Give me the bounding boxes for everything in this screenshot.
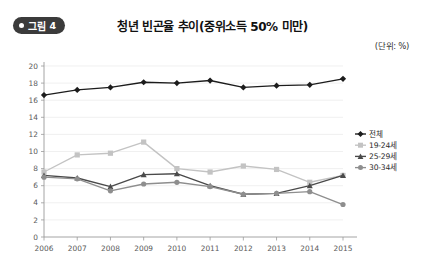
data-point-marker — [358, 165, 363, 170]
y-tick-label: 20 — [29, 62, 39, 71]
chart-legend: 전체19-24세25-29세30-34세 — [355, 129, 397, 173]
series-19-24세 — [41, 139, 345, 184]
y-tick-label: 18 — [29, 79, 39, 88]
data-point-marker — [307, 189, 312, 194]
x-tick-label: 2014 — [300, 244, 319, 253]
data-point-marker — [274, 191, 279, 196]
y-tick-label: 12 — [29, 130, 38, 139]
x-tick-label: 2011 — [201, 244, 220, 253]
series-line — [44, 79, 343, 95]
data-point-marker — [240, 84, 246, 90]
data-point-marker — [174, 180, 179, 185]
data-point-marker — [141, 79, 147, 85]
legend-label: 19-24세 — [369, 141, 397, 150]
data-point-marker — [108, 151, 113, 156]
data-point-marker — [358, 143, 363, 148]
y-tick-label: 0 — [33, 233, 38, 242]
x-tick-label: 2015 — [334, 244, 353, 253]
series-line — [44, 142, 343, 182]
data-point-marker — [141, 139, 146, 144]
y-tick-label: 8 — [33, 164, 38, 173]
x-tick-label: 2013 — [267, 244, 286, 253]
legend-label: 30-34세 — [369, 163, 397, 172]
data-point-marker — [358, 131, 364, 137]
legend-label: 전체 — [369, 129, 383, 139]
legend-item-19-24세[interactable]: 19-24세 — [355, 141, 397, 150]
x-tick-label: 2012 — [234, 244, 253, 253]
line-chart-svg: 02468101214161820 2006200720082009201020… — [0, 0, 425, 272]
x-tick-label: 2009 — [134, 244, 153, 253]
data-point-marker — [141, 181, 146, 186]
data-point-marker — [207, 77, 213, 83]
legend-item-25-29세[interactable]: 25-29세 — [355, 152, 397, 161]
x-axis-labels: 2006200720082009201020112012201320142015 — [35, 244, 353, 253]
data-point-marker — [74, 87, 80, 93]
data-point-marker — [241, 192, 246, 197]
data-point-marker — [340, 202, 345, 207]
legend-item-전체[interactable]: 전체 — [355, 129, 383, 139]
data-point-marker — [208, 169, 213, 174]
data-point-marker — [274, 167, 279, 172]
data-point-marker — [307, 82, 313, 88]
data-point-marker — [75, 176, 80, 181]
data-point-marker — [41, 175, 46, 180]
y-tick-label: 2 — [33, 216, 38, 225]
data-point-marker — [107, 84, 113, 90]
data-point-marker — [208, 184, 213, 189]
series-전체 — [41, 76, 346, 98]
data-point-marker — [108, 188, 113, 193]
legend-label: 25-29세 — [369, 152, 397, 161]
data-point-marker — [174, 166, 179, 171]
x-tick-label: 2007 — [68, 244, 87, 253]
y-axis-labels: 02468101214161820 — [29, 62, 39, 242]
x-tick-label: 2006 — [35, 244, 54, 253]
y-tick-label: 4 — [33, 198, 38, 207]
y-tick-label: 10 — [29, 147, 39, 156]
data-series-group — [41, 76, 346, 207]
data-point-marker — [340, 76, 346, 82]
y-tick-label: 6 — [33, 181, 38, 190]
data-point-marker — [174, 80, 180, 86]
y-tick-label: 16 — [29, 96, 39, 105]
figure-container: 그림 4 청년 빈곤율 추이(중위소득 50% 미만) (단위: %) 0246… — [0, 0, 425, 272]
data-point-marker — [241, 163, 246, 168]
y-tick-label: 14 — [29, 113, 39, 122]
legend-item-30-34세[interactable]: 30-34세 — [355, 163, 397, 172]
data-point-marker — [75, 152, 80, 157]
data-point-marker — [273, 83, 279, 89]
x-tick-label: 2010 — [167, 244, 186, 253]
x-tick-label: 2008 — [101, 244, 120, 253]
data-point-marker — [41, 92, 47, 98]
chart-plot-area: 02468101214161820 2006200720082009201020… — [0, 0, 425, 272]
